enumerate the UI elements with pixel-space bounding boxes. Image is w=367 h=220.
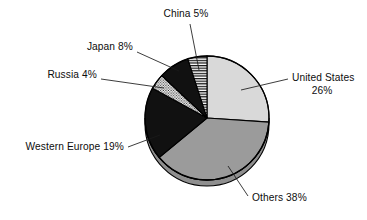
label-others: Others 38%	[252, 192, 307, 203]
label-united-states-line2: 26%	[312, 85, 333, 96]
label-russia: Russia 4%	[47, 69, 97, 80]
pie-slices	[145, 56, 269, 180]
pie-chart-figure: China 5% Japan 8% Russia 4% Western Euro…	[0, 0, 367, 220]
leader-line-russia	[101, 79, 164, 88]
pie-chart-svg: China 5% Japan 8% Russia 4% Western Euro…	[0, 0, 367, 220]
label-united-states-line1: United States	[292, 72, 354, 83]
label-china: China 5%	[164, 8, 209, 19]
pie-slice-united-states[interactable]	[207, 56, 269, 122]
label-japan: Japan 8%	[87, 41, 133, 52]
label-western-europe: Western Europe 19%	[26, 141, 124, 152]
leader-line-japan	[137, 52, 179, 71]
